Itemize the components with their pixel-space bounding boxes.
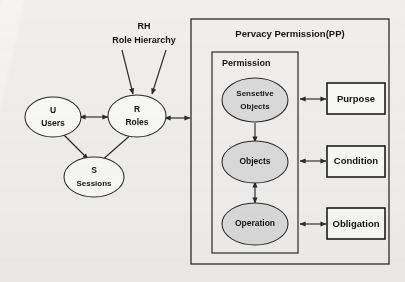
node-roles-line1: R [134, 104, 140, 114]
box-purpose[interactable]: Purpose [327, 83, 385, 114]
role-hierarchy-annotation: RH Role Hierarchy [112, 21, 176, 45]
node-users-line2: Users [41, 118, 65, 128]
edge-rh-right-to-roles [152, 50, 166, 94]
box-purpose-label: Purpose [337, 93, 375, 104]
node-sensetive-objects[interactable]: Sensetive Objects [222, 78, 288, 122]
role-hierarchy-abbrev: RH [138, 21, 151, 31]
permission-box-title: Permission [222, 58, 271, 68]
node-sensetive-objects-line1: Sensetive [236, 89, 274, 98]
node-operation[interactable]: Operation [222, 203, 288, 245]
node-sensetive-objects-line2: Objects [240, 102, 270, 111]
node-objects-label: Objects [239, 156, 270, 166]
node-sessions-line2: Sessions [76, 179, 112, 188]
box-obligation-label: Obligation [333, 218, 380, 229]
role-hierarchy-label: Role Hierarchy [112, 35, 176, 45]
privacy-permission-title: Pervacy Permission(PP) [235, 28, 344, 39]
box-condition-label: Condition [334, 155, 379, 166]
node-users-line1: U [50, 105, 56, 115]
node-roles-line2: Roles [125, 117, 148, 127]
node-operation-label: Operation [235, 218, 275, 228]
node-sessions-line1: S [91, 165, 97, 175]
node-sessions[interactable]: S Sessions [64, 157, 124, 197]
box-condition[interactable]: Condition [327, 146, 385, 177]
diagram-canvas: Pervacy Permission(PP) Permission U User… [0, 0, 405, 282]
node-objects[interactable]: Objects [222, 141, 288, 183]
node-users[interactable]: U Users [25, 97, 81, 137]
node-roles[interactable]: R Roles [108, 95, 166, 137]
diagram-svg: Pervacy Permission(PP) Permission U User… [0, 0, 405, 282]
box-obligation[interactable]: Obligation [327, 208, 385, 239]
edge-rh-left-to-roles [122, 50, 133, 94]
